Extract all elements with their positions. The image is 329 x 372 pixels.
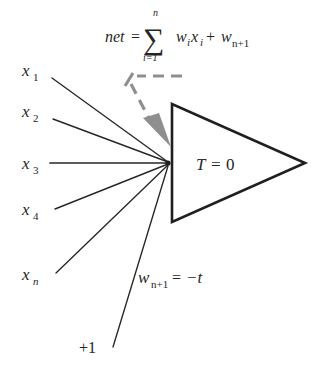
input-label-x2: x <box>21 102 30 121</box>
threshold-value: 0 <box>226 155 235 174</box>
bias-weight-symbol: w <box>138 268 150 287</box>
input-label-x1: x <box>21 61 30 80</box>
summation-lower-limit: i=1 <box>143 52 158 63</box>
net-input-formula: net = ∑ n i=1 w i x i + w n+1 <box>105 7 249 63</box>
bias-weight-equals: = <box>172 269 181 286</box>
formula-weight-subscript: i <box>187 36 190 48</box>
bias-weight-subscript: n+1 <box>151 278 168 290</box>
threshold-unit-shape <box>172 104 305 222</box>
input-wire-bias <box>113 166 168 347</box>
formula-lhs: net <box>105 28 125 45</box>
diagram-canvas: net = ∑ n i=1 w i x i + w n+1 x 1 x 2 x … <box>0 0 329 372</box>
bias-weight-value: −t <box>186 268 203 287</box>
input-label-x3: x <box>21 154 30 173</box>
formula-plus: + <box>206 28 215 45</box>
net-input-pointer-icon <box>125 73 182 147</box>
input-label-x2-subscript: 2 <box>33 112 39 124</box>
formula-input-subscript: i <box>200 36 203 48</box>
bias-input-label: +1 <box>79 339 96 356</box>
formula-bias-weight-subscript: n+1 <box>232 37 249 49</box>
input-labels: x 1 x 2 x 3 x 4 x n <box>21 61 39 287</box>
input-label-x3-subscript: 3 <box>33 164 39 176</box>
pointer-arrowhead-icon <box>143 113 171 147</box>
threshold-symbol: T <box>196 155 207 174</box>
input-label-x4: x <box>21 200 30 219</box>
threshold-equals: = <box>211 155 221 174</box>
input-label-x1-subscript: 1 <box>33 71 39 83</box>
bias-weight-label: w n+1 = −t <box>138 268 203 290</box>
input-label-x4-subscript: 4 <box>33 210 39 222</box>
threshold-label: T = 0 <box>196 155 235 174</box>
input-label-xn: x <box>21 265 30 284</box>
input-label-xn-subscript: n <box>33 275 39 287</box>
summation-sigma-icon: ∑ <box>143 22 164 56</box>
formula-weight-symbol: w <box>176 28 187 45</box>
perceptron-diagram: net = ∑ n i=1 w i x i + w n+1 x 1 x 2 x … <box>0 0 329 372</box>
summation-upper-limit: n <box>153 7 158 18</box>
formula-bias-weight-symbol: w <box>221 28 232 45</box>
formula-equals: = <box>131 28 140 45</box>
summation-node <box>165 160 170 165</box>
input-wire-x4 <box>55 164 168 209</box>
formula-input-symbol: x <box>190 28 198 45</box>
